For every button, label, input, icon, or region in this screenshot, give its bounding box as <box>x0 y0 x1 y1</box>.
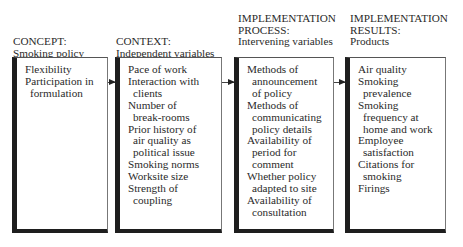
list-item: Strength ofcoupling <box>128 183 199 207</box>
list-item: Methods ofannouncementof policy <box>247 64 322 100</box>
item-text: Pace of work <box>128 63 187 75</box>
list-item: Interaction withclients <box>128 76 199 100</box>
heading-line: Intervening variables <box>238 36 336 48</box>
list-item: Smokingprevalence <box>358 76 433 100</box>
arrow-right-icon <box>222 82 234 83</box>
item-text: Smoking <box>358 99 398 111</box>
arrow-right-icon <box>334 82 345 83</box>
item-list: Pace of work Interaction withclients Num… <box>128 64 199 207</box>
heading-line: IMPLEMENTATION <box>350 13 448 25</box>
item-text: Flexibility <box>25 63 72 75</box>
list-item: Whether policyadapted to site <box>247 171 322 195</box>
heading-context: CONTEXT: Independent variables <box>116 36 214 59</box>
list-item: Participation informulation <box>25 76 94 100</box>
list-item: Methods ofcommunicatingpolicy details <box>247 100 322 136</box>
heading-concept: CONCEPT: Smoking policy <box>13 36 84 59</box>
item-text: Whether policy <box>247 170 316 182</box>
box-implementation-process: Methods ofannouncementof policy Methods … <box>234 57 334 233</box>
item-text: Interaction with <box>128 75 199 87</box>
list-item: Availability ofperiod forcomment <box>247 135 322 171</box>
list-item: Availability ofconsultation <box>247 195 322 219</box>
heading-line: CONCEPT: <box>13 36 84 48</box>
item-text: Participation in <box>25 75 94 87</box>
item-text: Firings <box>358 182 390 194</box>
item-text: Availability of <box>247 134 312 146</box>
item-text: Prior history of <box>128 123 196 135</box>
arrow-right-icon <box>108 82 115 83</box>
item-text: Smoking <box>358 75 398 87</box>
item-text: Citations for <box>358 158 414 170</box>
item-text: Methods of <box>247 99 298 111</box>
item-text: Worksite size <box>128 170 188 182</box>
item-list: Air quality Smokingprevalence Smokingfre… <box>358 64 433 195</box>
item-list: Flexibility Participation informulation <box>25 64 94 100</box>
item-text-continued: coupling <box>128 195 199 207</box>
list-item: Citations forsmoking <box>358 159 433 183</box>
list-item: Number ofbreak-rooms <box>128 100 199 124</box>
item-text-continued: consultation <box>247 207 322 219</box>
box-concept: Flexibility Participation informulation <box>12 57 108 233</box>
heading-implementation-results: IMPLEMENTATION RESULTS: Products <box>350 13 448 48</box>
heading-line: CONTEXT: <box>116 36 214 48</box>
list-item: Employeesatisfaction <box>358 135 433 159</box>
item-text: Employee <box>358 134 403 146</box>
item-text: Methods of <box>247 63 298 75</box>
heading-line: Products <box>350 36 448 48</box>
item-text: Availability of <box>247 194 312 206</box>
item-text-continued: frequency at <box>358 112 433 124</box>
item-text: Strength of <box>128 182 178 194</box>
list-item: Smokingfrequency athome and work <box>358 100 433 136</box>
item-text-continued: communicating <box>247 112 322 124</box>
item-text-continued: formulation <box>25 88 94 100</box>
item-text: Air quality <box>358 63 407 75</box>
item-text: Smoking norms <box>128 158 199 170</box>
item-list: Methods ofannouncementof policy Methods … <box>247 64 322 219</box>
heading-implementation-process: IMPLEMENTATION PROCESS: Intervening vari… <box>238 13 336 48</box>
item-text: Number of <box>128 99 177 111</box>
list-item: Prior history ofair quality aspolitical … <box>128 124 199 160</box>
box-context: Pace of work Interaction withclients Num… <box>115 57 222 233</box>
heading-line: IMPLEMENTATION <box>238 13 336 25</box>
list-item: Firings <box>358 183 433 195</box>
box-implementation-results: Air quality Smokingprevalence Smokingfre… <box>345 57 446 233</box>
